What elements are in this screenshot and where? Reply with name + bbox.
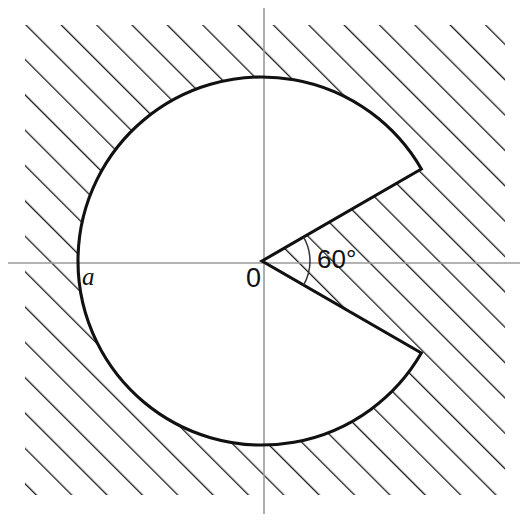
figure-canvas: 0 a 60° bbox=[0, 0, 528, 522]
geometry-diagram: 0 a 60° bbox=[0, 0, 528, 522]
origin-label: 0 bbox=[246, 263, 261, 293]
radius-label: a bbox=[82, 263, 95, 290]
angle-label: 60° bbox=[317, 244, 356, 274]
